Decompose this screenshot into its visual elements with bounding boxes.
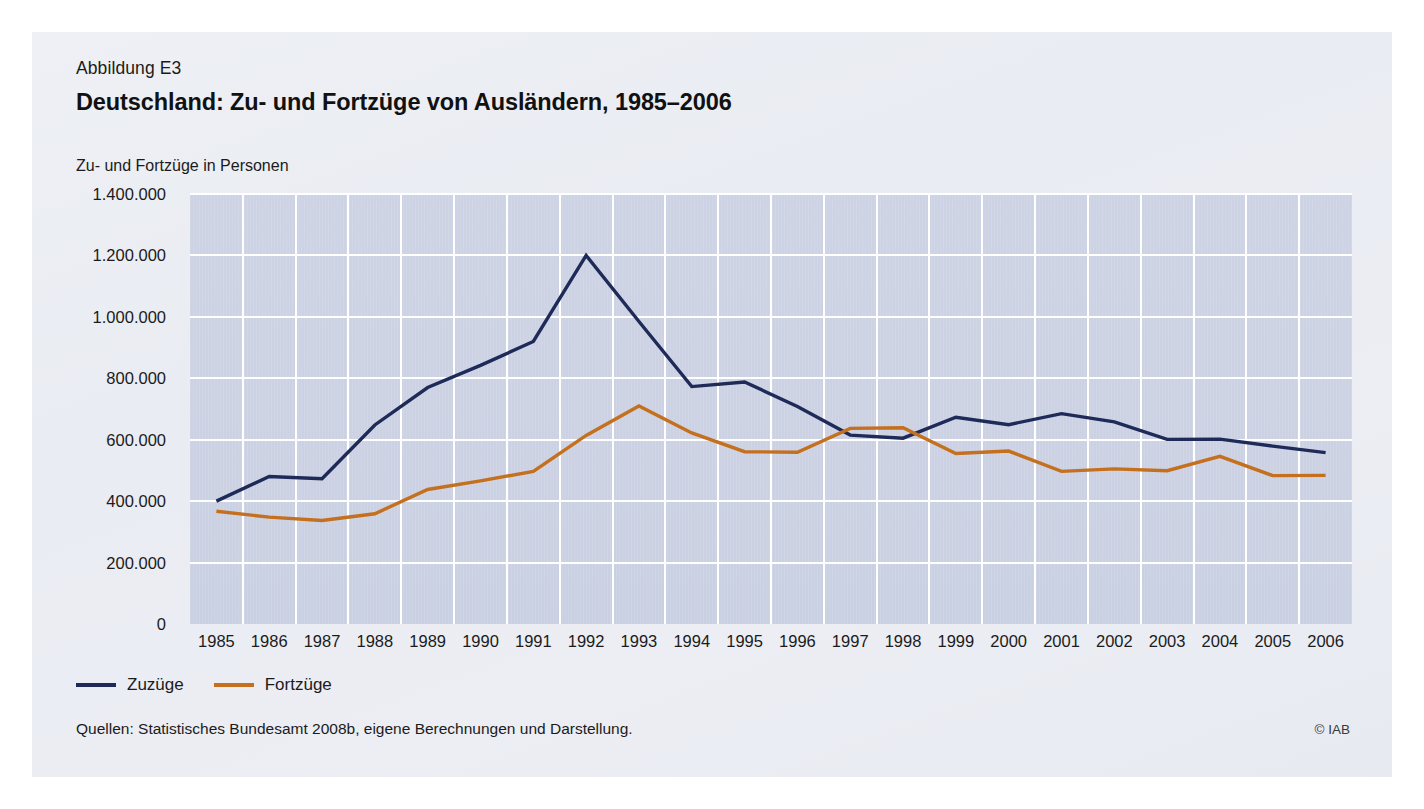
x-axis-tick-label: 1993	[621, 632, 658, 651]
x-axis-tick-labels: 1985198619871988198919901991199219931994…	[190, 632, 1352, 658]
y-axis-tick-label: 1.000.000	[46, 307, 166, 326]
figure-number-label: Abbildung E3	[76, 58, 181, 79]
y-axis-tick-label: 800.000	[46, 369, 166, 388]
x-axis-tick-label: 1989	[409, 632, 446, 651]
x-axis-tick-label: 1990	[462, 632, 499, 651]
x-axis-tick-label: 2006	[1307, 632, 1344, 651]
legend-item[interactable]: Fortzüge	[214, 675, 332, 695]
x-axis-tick-label: 2005	[1254, 632, 1291, 651]
x-axis-tick-label: 1991	[515, 632, 552, 651]
plot-wrapper: 0200.000400.000600.000800.0001.000.0001.…	[76, 184, 1352, 634]
legend-item[interactable]: Zuzüge	[76, 675, 184, 695]
figure-title: Deutschland: Zu- und Fortzüge von Auslän…	[76, 89, 732, 116]
series-line-zuzüge	[216, 255, 1325, 501]
x-axis-tick-label: 1987	[304, 632, 341, 651]
legend-line-swatch-icon	[76, 683, 116, 687]
x-axis-tick-label: 2000	[990, 632, 1027, 651]
y-axis-tick-label: 0	[46, 615, 166, 634]
figure-panel: Abbildung E3 Deutschland: Zu- und Fortzü…	[32, 32, 1392, 777]
x-axis-tick-label: 1999	[938, 632, 975, 651]
source-note: Quellen: Statistisches Bundesamt 2008b, …	[76, 720, 633, 738]
copyright-label: © IAB	[1315, 722, 1350, 737]
y-axis-tick-label: 1.200.000	[46, 246, 166, 265]
y-axis-tick-label: 200.000	[46, 553, 166, 572]
legend-label: Zuzüge	[127, 675, 184, 695]
x-axis-tick-label: 1985	[198, 632, 235, 651]
y-axis-caption: Zu- und Fortzüge in Personen	[76, 157, 289, 175]
x-axis-tick-label: 1988	[357, 632, 394, 651]
series-line-fortzüge	[216, 406, 1325, 521]
legend-line-swatch-icon	[214, 683, 254, 687]
legend-label: Fortzüge	[265, 675, 332, 695]
plot-area	[190, 194, 1352, 624]
series-lines	[190, 194, 1352, 624]
y-axis-tick-label: 1.400.000	[46, 185, 166, 204]
x-axis-tick-label: 1995	[726, 632, 763, 651]
x-axis-tick-label: 1997	[832, 632, 869, 651]
x-axis-tick-label: 1986	[251, 632, 288, 651]
y-axis-tick-label: 400.000	[46, 492, 166, 511]
x-axis-tick-label: 1994	[673, 632, 710, 651]
x-axis-tick-label: 2003	[1149, 632, 1186, 651]
x-axis-tick-label: 2001	[1043, 632, 1080, 651]
chart-legend: ZuzügeFortzüge	[76, 675, 332, 695]
x-axis-tick-label: 1998	[885, 632, 922, 651]
x-axis-tick-label: 1996	[779, 632, 816, 651]
y-axis-tick-label: 600.000	[46, 430, 166, 449]
x-axis-tick-label: 1992	[568, 632, 605, 651]
x-axis-tick-label: 2004	[1202, 632, 1239, 651]
x-axis-tick-label: 2002	[1096, 632, 1133, 651]
